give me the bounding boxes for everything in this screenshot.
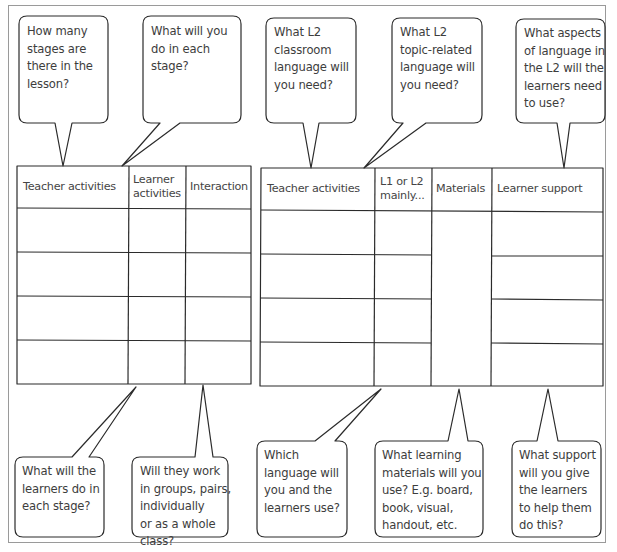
bubble-text-each-stage: What will you do in each stage? bbox=[151, 23, 227, 76]
left-cell-teacher-row-2[interactable] bbox=[18, 253, 128, 296]
left-cell-teacher-row-4[interactable] bbox=[18, 341, 128, 383]
right-cell-support-row-3[interactable] bbox=[493, 301, 602, 343]
left-cell-learner-row-2[interactable] bbox=[129, 253, 185, 296]
right-cell-teacher-row-4[interactable] bbox=[262, 343, 374, 385]
right-cell-l1l2-row-1[interactable] bbox=[376, 212, 431, 254]
left-cell-teacher-row-1[interactable] bbox=[18, 209, 128, 252]
right-header-materials: Materials bbox=[436, 168, 485, 210]
right-cell-support-row-4[interactable] bbox=[493, 345, 602, 385]
right-cell-l1l2-row-4[interactable] bbox=[376, 343, 431, 385]
left-header-interaction: Interaction bbox=[190, 166, 248, 208]
right-cell-teacher-row-1[interactable] bbox=[262, 212, 374, 254]
right-cell-materials[interactable] bbox=[433, 212, 490, 385]
bubble-text-language-aspects: What aspects of language in the L2 will … bbox=[524, 25, 605, 113]
left-cell-interaction-row-4[interactable] bbox=[186, 341, 250, 383]
left-cell-interaction-row-2[interactable] bbox=[186, 253, 250, 296]
left-cell-learner-row-3[interactable] bbox=[129, 297, 185, 340]
left-header-learner-activities: Learner activities bbox=[133, 166, 181, 208]
bubble-text-topic-language: What L2 topic-related language will you … bbox=[400, 24, 475, 94]
bubble-text-materials: What learning materials will you use? E.… bbox=[382, 447, 482, 535]
left-cell-interaction-row-3[interactable] bbox=[186, 297, 250, 340]
right-header-teacher-activities: Teacher activities bbox=[267, 168, 360, 210]
bubble-text-which-language: Which language will you and the learners… bbox=[264, 447, 340, 517]
left-cell-learner-row-4[interactable] bbox=[129, 341, 185, 383]
left-header-teacher-activities: Teacher activities bbox=[23, 166, 116, 208]
right-cell-teacher-row-3[interactable] bbox=[262, 299, 374, 342]
right-header-l1-or-l2: L1 or L2 mainly... bbox=[380, 168, 425, 210]
right-cell-l1l2-row-2[interactable] bbox=[376, 255, 431, 298]
bubble-text-classroom-language: What L2 classroom language will you need… bbox=[274, 24, 349, 94]
right-header-learner-support: Learner support bbox=[497, 168, 583, 210]
right-cell-support-row-2[interactable] bbox=[493, 257, 602, 299]
right-cell-teacher-row-2[interactable] bbox=[262, 255, 374, 298]
bubble-text-stages: How many stages are there in the lesson? bbox=[27, 23, 93, 93]
bubble-text-learners-do: What will the learners do in each stage? bbox=[22, 463, 100, 516]
right-cell-l1l2-row-3[interactable] bbox=[376, 299, 431, 342]
left-cell-learner-row-1[interactable] bbox=[129, 209, 185, 252]
bubble-text-interaction: Will they work in groups, pairs, individ… bbox=[140, 463, 231, 551]
bubble-text-support: What support will you give the learners … bbox=[519, 447, 596, 535]
left-cell-interaction-row-1[interactable] bbox=[186, 209, 250, 252]
left-cell-teacher-row-3[interactable] bbox=[18, 297, 128, 340]
right-cell-support-row-1[interactable] bbox=[493, 212, 602, 255]
